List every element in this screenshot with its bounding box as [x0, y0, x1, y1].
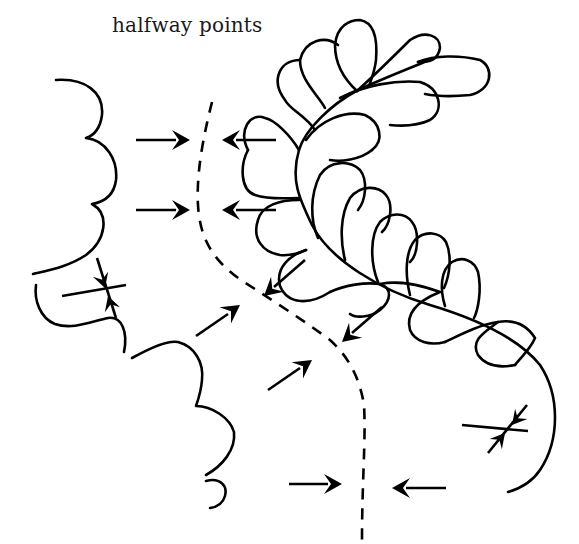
- diagram-artwork: [0, 0, 579, 544]
- feather-spine: [296, 61, 555, 492]
- arrow-right-bottom: [289, 474, 342, 494]
- pinch-marker-left: [62, 258, 126, 318]
- arrow-diag-up-right-2: [268, 352, 318, 390]
- arrow-diag-up-right-1: [196, 297, 246, 336]
- center-guide-dashed-line: [198, 102, 365, 540]
- arrow-right-row2: [136, 200, 190, 220]
- pinch-marker-right: [462, 405, 528, 453]
- arrow-left-row2: [222, 200, 276, 220]
- arrow-left-row1: [222, 130, 276, 150]
- diagram-canvas: halfway points: [0, 0, 579, 544]
- arrow-right-row1: [136, 130, 190, 150]
- arrow-left-bottom: [392, 478, 446, 498]
- feather-plume: [243, 20, 555, 492]
